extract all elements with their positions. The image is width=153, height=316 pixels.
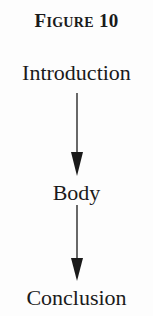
figure-title: FIGURE 10	[0, 10, 153, 32]
arrow-down-icon	[0, 203, 153, 283]
node-introduction: Introduction	[0, 60, 153, 86]
arrow-down-icon	[0, 90, 153, 180]
figure-number: 10	[99, 10, 119, 31]
node-conclusion: Conclusion	[0, 285, 153, 311]
figure-title-rest: IGURE	[46, 15, 93, 30]
figure-title-initial: F	[35, 10, 47, 31]
